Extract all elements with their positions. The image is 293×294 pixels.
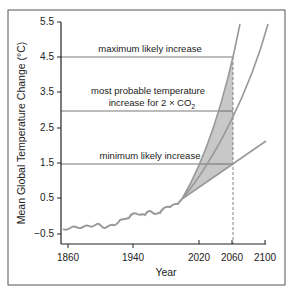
- temperature-chart: 5.5 4.5 3.5 2.5 1.5 0.5 −0.5 1860 1940 2…: [0, 0, 293, 294]
- x-axis-title: Year: [155, 266, 177, 278]
- x-tick-2100: 2100: [254, 252, 277, 263]
- most-probable-label-line1: most probable temperature: [91, 85, 205, 96]
- max-increase-label: maximum likely increase: [98, 43, 201, 54]
- y-tick-0.5: 0.5: [40, 192, 54, 203]
- y-tick-1.5: 1.5: [40, 157, 54, 168]
- min-increase-label: minimum likely increase: [100, 150, 201, 161]
- x-tick-1940: 1940: [122, 252, 145, 263]
- y-axis-title: Mean Global Temperature Change (°C): [15, 42, 27, 225]
- y-tick-2.5: 2.5: [40, 122, 54, 133]
- y-tick-4.5: 4.5: [40, 51, 54, 62]
- x-tick-2060: 2060: [221, 252, 244, 263]
- y-tick-neg0.5: −0.5: [34, 228, 54, 239]
- x-tick-2020: 2020: [188, 252, 211, 263]
- y-tick-5.5: 5.5: [40, 16, 54, 27]
- y-tick-3.5: 3.5: [40, 86, 54, 97]
- x-tick-1860: 1860: [57, 252, 80, 263]
